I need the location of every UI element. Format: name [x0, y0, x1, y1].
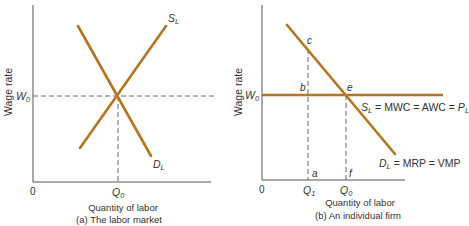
point-e-label: e: [347, 82, 353, 93]
labor-market-diagram: Wage rate W0 SL DL 0 Q0 Quantity of labo…: [0, 0, 469, 226]
x-axis-label: Quantity of labor: [325, 197, 395, 208]
supply-curve-label: SL = MWC = AWC = PL: [361, 101, 469, 115]
point-b-label: b: [300, 82, 306, 93]
point-a-label: a: [312, 168, 318, 179]
quantity-q0-label: Q0: [112, 186, 125, 200]
quantity-q0-label: Q0: [340, 184, 353, 198]
origin-label: 0: [259, 184, 265, 195]
supply-curve: [80, 26, 166, 148]
origin-label: 0: [30, 186, 36, 197]
point-c-label: c: [307, 35, 312, 46]
panel-individual-firm: Wage rate W0 c b e a f SL = MWC = AWC = …: [232, 5, 469, 221]
demand-curve-label: DL = MRP = VMP: [379, 157, 461, 171]
panel-a-caption: (a) The labor market: [76, 214, 162, 225]
demand-label: DL: [153, 158, 165, 172]
quantity-q1-label: Q1: [303, 184, 315, 198]
y-axis-label: Wage rate: [2, 68, 14, 116]
supply-label: SL: [168, 12, 179, 26]
wage-label: W0: [245, 89, 260, 103]
panel-b-caption: (b) An individual firm: [315, 210, 401, 221]
wage-label: W0: [16, 90, 31, 104]
panel-labor-market: Wage rate W0 SL DL 0 Q0 Quantity of labo…: [2, 5, 216, 225]
x-axis-label: Quantity of labor: [88, 202, 158, 213]
point-f-label: f: [349, 168, 353, 179]
y-axis-label: Wage rate: [232, 68, 244, 116]
